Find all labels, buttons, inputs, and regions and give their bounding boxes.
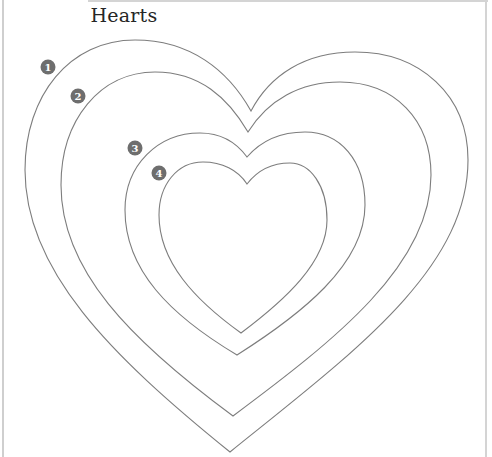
nested-hearts-diagram: 1234 (0, 0, 492, 457)
heart-outline-2 (61, 72, 431, 416)
badge-number: 3 (132, 143, 139, 154)
number-badge-3: 3 (128, 141, 143, 156)
heart-outline-1 (25, 40, 468, 452)
number-badge-4: 4 (152, 166, 167, 181)
heart-outline-4 (159, 162, 327, 333)
badge-number: 1 (45, 62, 52, 73)
number-badge-2: 2 (71, 89, 86, 104)
badges-layer: 1234 (41, 60, 167, 181)
badge-number: 2 (75, 91, 82, 102)
number-badge-1: 1 (41, 60, 56, 75)
badge-number: 4 (156, 168, 163, 179)
heart-outline-3 (125, 132, 365, 355)
hearts-layer (25, 40, 468, 452)
hearts-worksheet: Hearts 1234 (0, 0, 492, 457)
